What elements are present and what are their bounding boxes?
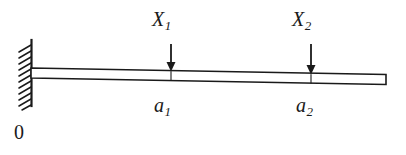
origin-label: 0 bbox=[14, 122, 24, 142]
position-label-a2: a2 bbox=[296, 95, 313, 118]
position-label-a1-subscript: 1 bbox=[165, 104, 172, 119]
load-label-x2-base: X bbox=[292, 8, 304, 30]
origin-label-text: 0 bbox=[14, 121, 24, 143]
load-label-x2-subscript: 2 bbox=[305, 18, 312, 33]
load-label-x1-base: X bbox=[152, 8, 164, 30]
position-label-a1: a1 bbox=[154, 95, 171, 118]
beam-body bbox=[31, 68, 386, 85]
load-label-x1-subscript: 1 bbox=[165, 18, 172, 33]
position-label-a1-base: a bbox=[154, 94, 164, 116]
load-arrow-1 bbox=[167, 44, 176, 72]
position-label-a2-subscript: 2 bbox=[307, 104, 314, 119]
load-label-x2: X2 bbox=[292, 9, 311, 32]
beam-outline bbox=[31, 68, 386, 85]
wall-hatching bbox=[19, 45, 31, 110]
position-label-a2-base: a bbox=[296, 94, 306, 116]
load-label-x1: X1 bbox=[152, 9, 171, 32]
cantilever-beam-diagram: X1 X2 a1 a2 0 bbox=[0, 0, 406, 155]
load-arrow-2 bbox=[307, 44, 316, 75]
beam-drawing bbox=[0, 0, 406, 155]
fixed-support-wall bbox=[19, 40, 32, 110]
